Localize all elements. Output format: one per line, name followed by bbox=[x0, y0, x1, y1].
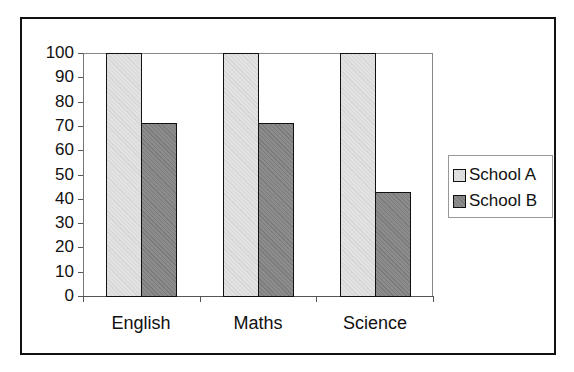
legend: School A School B bbox=[448, 155, 553, 218]
y-tick-label: 50 bbox=[26, 166, 74, 183]
x-tick-label: Science bbox=[317, 313, 433, 334]
y-tick bbox=[78, 223, 83, 224]
bar-school-b-maths bbox=[258, 123, 294, 297]
bar-school-b-science bbox=[375, 192, 411, 297]
bar-school-a-maths bbox=[223, 53, 259, 297]
y-axis bbox=[83, 53, 84, 297]
y-tick bbox=[78, 150, 83, 151]
x-tick bbox=[200, 296, 201, 302]
y-tick bbox=[78, 77, 83, 78]
y-tick-label: 90 bbox=[26, 68, 74, 85]
y-tick-label: 30 bbox=[26, 214, 74, 231]
y-tick bbox=[78, 272, 83, 273]
bar-school-a-english bbox=[106, 53, 142, 297]
y-tick-label: 100 bbox=[26, 44, 74, 61]
legend-item-school-b: School B bbox=[453, 190, 537, 212]
y-tick bbox=[78, 126, 83, 127]
y-tick-label: 0 bbox=[26, 287, 74, 304]
y-tick bbox=[78, 102, 83, 103]
x-tick-label: Maths bbox=[200, 313, 316, 334]
legend-label: School B bbox=[469, 191, 537, 211]
legend-label: School A bbox=[469, 165, 536, 185]
x-tick-label: English bbox=[83, 313, 199, 334]
y-tick bbox=[78, 247, 83, 248]
y-tick-label: 10 bbox=[26, 263, 74, 280]
y-tick-label: 20 bbox=[26, 238, 74, 255]
x-tick bbox=[316, 296, 317, 302]
y-tick-label: 80 bbox=[26, 93, 74, 110]
y-tick-label: 40 bbox=[26, 190, 74, 207]
legend-swatch-school-a bbox=[453, 169, 466, 182]
y-tick bbox=[78, 53, 83, 54]
y-tick bbox=[78, 199, 83, 200]
legend-item-school-a: School A bbox=[453, 164, 536, 186]
y-tick-label: 60 bbox=[26, 141, 74, 158]
y-tick bbox=[78, 175, 83, 176]
y-tick-label: 70 bbox=[26, 117, 74, 134]
bar-school-b-english bbox=[141, 123, 177, 297]
x-tick bbox=[83, 296, 84, 302]
legend-swatch-school-b bbox=[453, 195, 466, 208]
bar-school-a-science bbox=[340, 53, 376, 297]
x-tick bbox=[433, 296, 434, 302]
